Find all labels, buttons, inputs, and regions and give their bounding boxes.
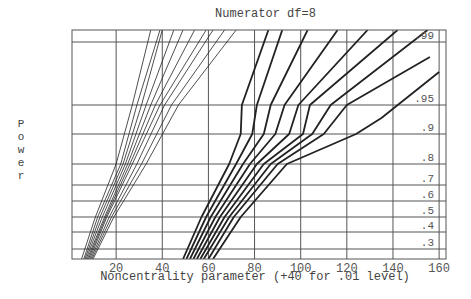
x-tick-label: 120	[336, 262, 358, 276]
power-curve	[87, 30, 183, 259]
power-curve	[84, 30, 160, 259]
power-level-label: .7	[421, 173, 434, 185]
power-curve	[187, 30, 283, 259]
power-level-label: .3	[421, 237, 434, 249]
power-level-label: .4	[421, 220, 435, 232]
x-tick-label: 80	[247, 262, 261, 276]
power-curve	[197, 30, 368, 259]
power-level-label: .6	[421, 189, 434, 201]
power-curve	[86, 30, 174, 259]
power-curve	[208, 57, 429, 259]
power-curve	[92, 30, 225, 259]
power-level-label: .9	[421, 122, 434, 134]
power-level-label: .5	[421, 205, 434, 217]
power-level-label: .95	[414, 93, 434, 105]
x-tick-label: 60	[201, 262, 215, 276]
x-tick-label: 140	[382, 262, 404, 276]
x-tick-labels: 20406080100120140160	[109, 262, 450, 276]
power-curves	[82, 30, 440, 259]
x-tick-label: 40	[155, 262, 169, 276]
x-tick-label: 160	[428, 262, 450, 276]
power-level-label: .99	[414, 30, 434, 42]
x-tick-label: 100	[290, 262, 312, 276]
power-curve	[85, 30, 162, 259]
power-level-labels: .3.4.5.6.7.8.9.95.99	[414, 30, 434, 249]
plot-border	[72, 30, 446, 259]
plot-frame	[72, 30, 446, 259]
power-curve	[90, 30, 207, 259]
power-curve	[91, 30, 213, 259]
power-curve	[93, 30, 236, 259]
grid-lines	[72, 30, 446, 259]
power-chart: 20406080100120140160 .3.4.5.6.7.8.9.95.9…	[0, 0, 471, 299]
power-curve	[213, 72, 439, 259]
x-tick-label: 20	[109, 262, 123, 276]
power-level-label: .8	[421, 152, 434, 164]
